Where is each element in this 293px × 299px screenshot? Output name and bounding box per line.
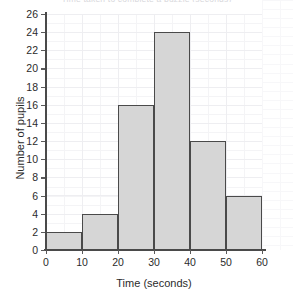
- bar-series: [46, 14, 262, 250]
- y-tick-mark: [41, 159, 45, 160]
- y-tick-mark: [41, 87, 45, 88]
- y-tick-mark: [41, 14, 45, 15]
- histogram-bar: [46, 232, 82, 250]
- y-tick-mark: [41, 196, 45, 197]
- x-tick-label: 10: [76, 256, 88, 268]
- x-tick-label: 60: [256, 256, 268, 268]
- histogram-bar: [82, 214, 118, 250]
- histogram-figure: 0102030405060 02468101214161820222426 Ti…: [0, 0, 293, 299]
- x-tick-mark: [118, 250, 119, 254]
- x-tick-label: 0: [43, 256, 49, 268]
- y-tick-label: 26: [18, 8, 38, 20]
- x-tick-mark: [82, 250, 83, 254]
- outer-gridlines: [262, 0, 293, 250]
- y-tick-mark: [41, 232, 45, 233]
- y-tick-mark: [41, 68, 45, 69]
- x-axis-title: Time (seconds): [46, 277, 262, 289]
- y-tick-label: 0: [18, 244, 38, 256]
- histogram-bar: [226, 196, 262, 250]
- x-tick-mark: [226, 250, 227, 254]
- y-tick-mark: [41, 177, 45, 178]
- x-tick-mark: [154, 250, 155, 254]
- y-tick-label: 24: [18, 26, 38, 38]
- y-axis-title: Number of pupils: [14, 48, 26, 228]
- plot-area: [46, 14, 262, 250]
- y-axis-line: [45, 12, 47, 251]
- x-tick-mark: [46, 250, 47, 254]
- x-tick-label: 50: [220, 256, 232, 268]
- y-tick-mark: [41, 32, 45, 33]
- x-tick-label: 30: [148, 256, 160, 268]
- y-tick-mark: [41, 141, 45, 142]
- histogram-bar: [190, 141, 226, 250]
- x-tick-mark: [190, 250, 191, 254]
- y-tick-mark: [41, 250, 45, 251]
- x-tick-mark: [262, 250, 263, 254]
- x-tick-label: 20: [112, 256, 124, 268]
- histogram-bar: [118, 105, 154, 250]
- y-tick-mark: [41, 105, 45, 106]
- y-tick-mark: [41, 123, 45, 124]
- histogram-bar: [154, 32, 190, 250]
- y-tick-mark: [41, 50, 45, 51]
- y-tick-mark: [41, 214, 45, 215]
- x-tick-label: 40: [184, 256, 196, 268]
